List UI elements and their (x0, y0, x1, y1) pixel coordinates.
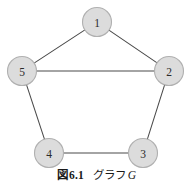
caption-graph-word: グラフ (93, 169, 127, 181)
graph-edge-5-4 (26, 84, 45, 140)
caption-graph-symbol: G (128, 169, 137, 181)
graph-node-2: 2 (155, 57, 184, 86)
graph-node-label-2: 2 (166, 66, 172, 78)
figure-caption: 図6.1グラフG (0, 167, 193, 183)
edges-group (26, 29, 165, 153)
graph-node-label-1: 1 (94, 17, 100, 29)
figure-container: 12345 図6.1グラフG (0, 0, 193, 190)
graph-node-4: 4 (35, 139, 64, 168)
graph-node-label-3: 3 (140, 148, 146, 160)
graph-node-label-5: 5 (19, 66, 25, 78)
graph-node-label-4: 4 (46, 148, 52, 160)
nodes-group: 12345 (8, 8, 184, 168)
graph-node-1: 1 (83, 8, 112, 37)
graph-edge-1-5 (33, 29, 85, 63)
graph-node-5: 5 (8, 57, 37, 86)
caption-figure-word: 図 (57, 169, 68, 181)
graph-edge-2-3 (147, 84, 165, 140)
caption-figure-number: 6.1 (69, 169, 84, 181)
graph-edge-1-2 (108, 30, 158, 64)
graph-node-3: 3 (129, 139, 158, 168)
graph-diagram: 12345 (0, 0, 193, 168)
